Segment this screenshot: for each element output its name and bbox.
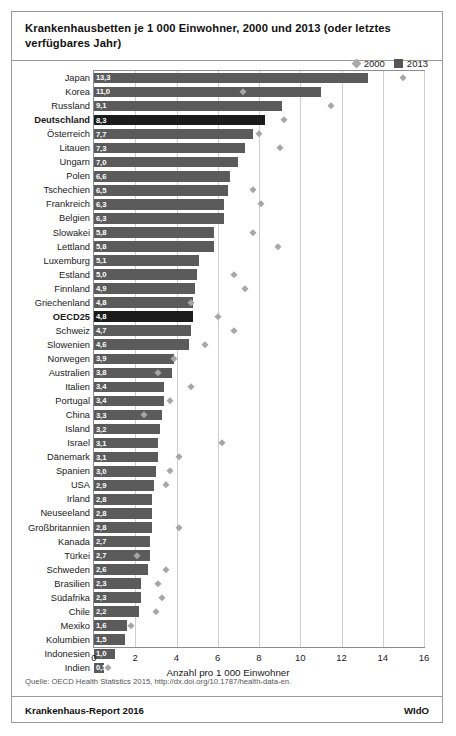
chart-row: Griechenland4,8 (94, 296, 424, 310)
bar-value-label: 5,8 (96, 227, 106, 238)
bar-2013: 4,6 (94, 339, 189, 350)
category-label: Deutschland (0, 113, 90, 127)
bar-2013: 5,0 (94, 269, 197, 280)
chart-row: Chile2,2 (94, 605, 424, 619)
bar-2013: 5,1 (94, 255, 199, 266)
category-label: Estland (0, 268, 90, 282)
category-label: Israel (0, 436, 90, 450)
chart-row: Luxemburg5,1 (94, 254, 424, 268)
bar-value-label: 3,9 (96, 354, 106, 365)
category-label: Indonesien (0, 647, 90, 661)
bar-value-label: 4,8 (96, 311, 106, 322)
marker-2000 (218, 439, 226, 447)
bar-2013: 2,8 (94, 522, 152, 533)
bar-2013: 3,0 (94, 466, 156, 477)
marker-2000 (241, 285, 249, 293)
bar-2013: 5,8 (94, 227, 214, 238)
x-axis-tick: 10 (295, 652, 306, 663)
category-label: Türkei (0, 549, 90, 563)
category-label: Österreich (0, 127, 90, 141)
bar-2013: 4,9 (94, 283, 195, 294)
bar-value-label: 5,8 (96, 241, 106, 252)
publisher-name: WIdO (404, 705, 429, 716)
diamond-marker-icon (351, 59, 361, 69)
category-label: Brasilien (0, 577, 90, 591)
marker-2000 (154, 580, 162, 588)
bar-2013: 2,3 (94, 592, 141, 603)
source-note: Quelle: OECD Health Statistics 2015, htt… (25, 676, 429, 687)
category-label: China (0, 408, 90, 422)
bar-2013: 2,7 (94, 536, 150, 547)
marker-2000 (230, 327, 238, 335)
bar-2013: 3,2 (94, 424, 160, 435)
bar-value-label: 3,4 (96, 382, 106, 393)
bar-value-label: 1,6 (96, 620, 106, 631)
bar-2013: 6,3 (94, 213, 224, 224)
chart-row: Ungarn7,0 (94, 155, 424, 169)
category-label: USA (0, 478, 90, 492)
category-label: Polen (0, 169, 90, 183)
marker-2000 (162, 566, 170, 574)
chart-area: Japan13,3Korea11,0Russland9,1Deutschland… (12, 70, 444, 660)
bar-value-label: 5,0 (96, 269, 106, 280)
marker-2000 (327, 102, 335, 110)
bar-2013: 6,6 (94, 171, 230, 182)
bar-value-label: 9,1 (96, 101, 106, 112)
marker-2000 (257, 201, 265, 209)
category-label: Mexiko (0, 619, 90, 633)
bar-value-label: 4,7 (96, 325, 106, 336)
bar-2013: 7,0 (94, 157, 238, 168)
marker-2000 (249, 229, 257, 237)
bar-2013: 3,1 (94, 438, 158, 449)
bar-value-label: 2,8 (96, 494, 106, 505)
chart-row: OECD254,8 (94, 310, 424, 324)
plot-area: Japan13,3Korea11,0Russland9,1Deutschland… (93, 70, 425, 648)
bar-2013: 11,0 (94, 87, 321, 98)
chart-row: Brasilien2,3 (94, 577, 424, 591)
bar-value-label: 3,1 (96, 452, 106, 463)
chart-row: Schweiz4,7 (94, 324, 424, 338)
bar-2013: 2,3 (94, 578, 141, 589)
bar-value-label: 3,2 (96, 424, 106, 435)
bar-2013: 3,1 (94, 452, 158, 463)
bar-value-label: 2,7 (96, 550, 106, 561)
chart-row: Norwegen3,9 (94, 352, 424, 366)
bar-2013: 2,9 (94, 480, 154, 491)
legend-item-2000: 2000 (353, 58, 385, 69)
bar-value-label: 6,3 (96, 199, 106, 210)
category-label: Chile (0, 605, 90, 619)
bar-value-label: 5,1 (96, 255, 106, 266)
category-label: Dänemark (0, 450, 90, 464)
bar-2013: 4,8 (94, 311, 193, 322)
x-axis-tick: 4 (174, 652, 179, 663)
bar-value-label: 2,8 (96, 508, 106, 519)
category-label: Südafrika (0, 591, 90, 605)
chart-row: Russland9,1 (94, 99, 424, 113)
chart-row: Tschechien6,5 (94, 183, 424, 197)
marker-2000 (274, 243, 282, 251)
category-label: Slowakei (0, 226, 90, 240)
marker-2000 (230, 271, 238, 279)
bar-2013: 1,6 (94, 620, 127, 631)
marker-2000 (162, 482, 170, 490)
category-label: Irland (0, 492, 90, 506)
bar-value-label: 4,8 (96, 297, 106, 308)
figure-frame: Krankenhausbetten je 1 000 Einwohner, 20… (11, 11, 443, 723)
category-label: Island (0, 422, 90, 436)
bar-value-label: 7,3 (96, 143, 106, 154)
chart-row: Finnland4,9 (94, 282, 424, 296)
bar-2013: 2,2 (94, 606, 139, 617)
bar-value-label: 2,2 (96, 606, 106, 617)
bar-value-label: 2,6 (96, 564, 106, 575)
marker-2000 (202, 341, 210, 349)
category-label: Ungarn (0, 155, 90, 169)
category-label: Frankreich (0, 197, 90, 211)
bar-2013: 13,3 (94, 73, 368, 84)
x-axis: 0246810121416 (93, 650, 425, 666)
square-marker-icon (394, 59, 403, 68)
bar-2013: 2,6 (94, 564, 148, 575)
marker-2000 (276, 144, 284, 152)
chart-row: Island3,2 (94, 422, 424, 436)
figure-footer: Krankenhaus-Report 2016 WIdO (12, 696, 442, 723)
category-label: Belgien (0, 211, 90, 225)
